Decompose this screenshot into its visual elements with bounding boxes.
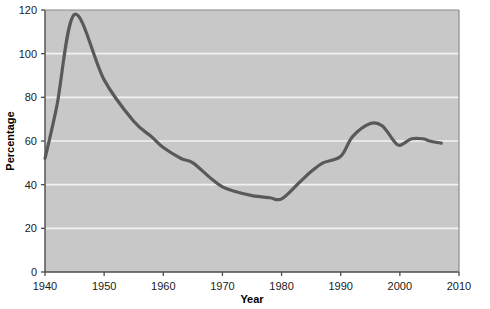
y-tick-label-20: 20 (25, 222, 37, 234)
x-tick-label-1980: 1980 (269, 280, 293, 292)
x-tick-label-1940: 1940 (33, 280, 57, 292)
y-tick-label-100: 100 (19, 48, 37, 60)
y-tick-label-0: 0 (31, 266, 37, 278)
chart-container: 020406080100120 194019501960197019801990… (0, 0, 490, 309)
y-tick-label-80: 80 (25, 91, 37, 103)
y-tick-label-120: 120 (19, 4, 37, 16)
y-tick-label-40: 40 (25, 179, 37, 191)
x-tick-label-1960: 1960 (151, 280, 175, 292)
x-tick-label-2010: 2010 (447, 280, 471, 292)
x-tick-label-2000: 2000 (388, 280, 412, 292)
line-chart: 020406080100120 194019501960197019801990… (0, 0, 490, 309)
x-tick-label-1950: 1950 (92, 280, 116, 292)
y-axis-title: Percentage (4, 111, 16, 170)
y-tick-label-60: 60 (25, 135, 37, 147)
x-tick-label-1970: 1970 (210, 280, 234, 292)
x-tick-label-1990: 1990 (328, 280, 352, 292)
x-axis-title: Year (240, 293, 264, 305)
